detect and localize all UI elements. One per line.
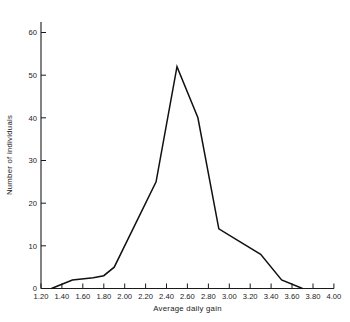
x-tick-label: 3.80: [306, 292, 321, 301]
y-tick-label: 30: [29, 156, 37, 165]
x-tick-label: 2.20: [138, 292, 153, 301]
chart-container: 0 10 20 30 40 50 60 1: [0, 0, 350, 322]
x-tick-label: 3.60: [285, 292, 300, 301]
y-tick-label: 60: [29, 28, 37, 37]
y-tick-label: 10: [29, 242, 37, 251]
x-tick-label: 2.00: [117, 292, 132, 301]
x-tick-label: 1.60: [75, 292, 90, 301]
y-tick-label: 50: [29, 71, 37, 80]
x-tick-label: 3.40: [264, 292, 279, 301]
x-axis-title: Average daily gain: [153, 304, 222, 313]
y-tick-label: 40: [29, 114, 37, 123]
x-axis-tick-labels: 1.20 1.40 1.60 1.80 2.00 2.20 2.40 2.60 …: [34, 292, 342, 301]
y-axis-title: Number of individuals: [5, 115, 14, 195]
x-tick-label: 1.20: [34, 292, 49, 301]
frequency-distribution-chart: 0 10 20 30 40 50 60 1: [0, 0, 350, 322]
x-tick-label: 2.60: [180, 292, 195, 301]
x-tick-label: 2.40: [159, 292, 174, 301]
x-tick-label: 4.00: [327, 292, 342, 301]
x-tick-label: 2.80: [201, 292, 216, 301]
x-tick-label: 3.20: [243, 292, 258, 301]
y-tick-label: 20: [29, 199, 37, 208]
x-tick-label: 1.80: [96, 292, 111, 301]
x-tick-label: 1.40: [55, 292, 70, 301]
chart-background: [0, 0, 350, 322]
x-tick-label: 3.00: [222, 292, 237, 301]
